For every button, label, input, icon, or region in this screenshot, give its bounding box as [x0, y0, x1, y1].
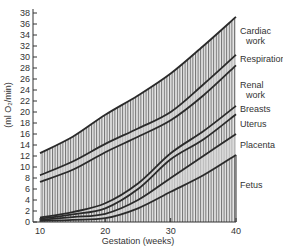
series-label: Breasts: [240, 104, 271, 114]
y-tick-label: 2: [25, 206, 30, 216]
y-tick-label: 36: [20, 19, 30, 29]
series-label: Fetus: [240, 180, 263, 190]
x-axis-title: Gestation (weeks): [102, 236, 175, 246]
x-tick-label: 10: [35, 226, 45, 236]
series-label: Renal: [240, 80, 264, 90]
y-tick-label: 14: [20, 140, 30, 150]
y-tick-label: 28: [20, 63, 30, 73]
y-tick-label: 16: [20, 129, 30, 139]
y-tick-label: 26: [20, 74, 30, 84]
y-tick-label: 34: [20, 30, 30, 40]
y-tick-label: 10: [20, 162, 30, 172]
series-labels: CardiacworkRespirationRenalworkBreastsUt…: [240, 26, 283, 190]
x-tick-label: 40: [231, 226, 241, 236]
series-label: Respiration: [240, 54, 283, 64]
x-tick-label: 20: [100, 226, 110, 236]
area-bands: [40, 17, 236, 222]
y-tick-label: 20: [20, 107, 30, 117]
x-tick-label: 30: [166, 226, 176, 236]
series-label: work: [245, 36, 266, 46]
y-tick-label: 24: [20, 85, 30, 95]
y-tick-label: 32: [20, 41, 30, 51]
series-label: Cardiac: [240, 26, 272, 36]
series-label: Placenta: [240, 140, 275, 150]
y-tick-label: 0: [25, 217, 30, 227]
y-tick-label: 18: [20, 118, 30, 128]
y-tick-label: 8: [25, 173, 30, 183]
y-tick-label: 38: [20, 8, 30, 18]
y-tick-label: 12: [20, 151, 30, 161]
series-label: work: [245, 90, 266, 100]
y-tick-label: 6: [25, 184, 30, 194]
series-label: Uterus: [240, 119, 267, 129]
y-tick-label: 22: [20, 96, 30, 106]
y-tick-label: 4: [25, 195, 30, 205]
y-tick-label: 30: [20, 52, 30, 62]
oxygen-consumption-chart: 0246810121416182022242628303234363810203…: [0, 0, 283, 248]
y-axis-title: (ml O₂/min): [3, 82, 13, 128]
